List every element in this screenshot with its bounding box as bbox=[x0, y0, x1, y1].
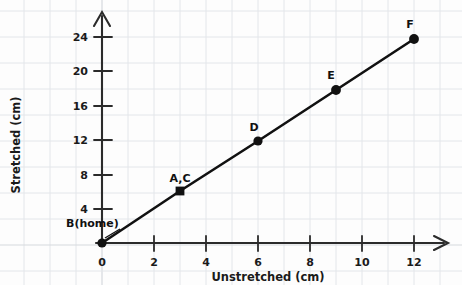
x-tick-label-0: 0 bbox=[98, 256, 106, 269]
x-axis-title: Unstretched (cm) bbox=[211, 270, 324, 284]
y-tick-label-24: 24 bbox=[73, 31, 89, 44]
point-label-ac: A,C bbox=[170, 172, 191, 185]
x-tick-label-6: 6 bbox=[254, 256, 262, 269]
y-tick-label-8: 8 bbox=[80, 169, 88, 182]
x-tick-label-8: 8 bbox=[306, 256, 314, 269]
data-point-b[interactable] bbox=[97, 238, 106, 247]
data-point-ac[interactable] bbox=[176, 187, 185, 196]
x-tick-label-12: 12 bbox=[406, 256, 421, 269]
chart-canvas: 24 20 16 12 8 4 0 2 4 6 8 10 12 Unstret bbox=[0, 0, 462, 285]
point-label-d: D bbox=[249, 121, 258, 134]
y-axis-title: Stretched (cm) bbox=[9, 96, 23, 193]
point-label-b: B(home) bbox=[66, 217, 119, 230]
graph-paper-chart: 24 20 16 12 8 4 0 2 4 6 8 10 12 Unstret bbox=[0, 0, 462, 285]
data-point-d[interactable] bbox=[253, 136, 262, 145]
y-tick-label-4: 4 bbox=[80, 203, 88, 216]
x-tick-label-2: 2 bbox=[150, 256, 158, 269]
y-tick-label-20: 20 bbox=[73, 65, 89, 78]
point-label-e: E bbox=[327, 69, 335, 82]
x-tick-label-10: 10 bbox=[354, 256, 370, 269]
point-label-f: F bbox=[406, 18, 414, 31]
x-tick-label-4: 4 bbox=[202, 256, 210, 269]
y-tick-label-12: 12 bbox=[73, 134, 88, 147]
data-point-f[interactable] bbox=[409, 34, 419, 44]
y-tick-label-16: 16 bbox=[73, 100, 89, 113]
data-point-e[interactable] bbox=[331, 85, 341, 95]
